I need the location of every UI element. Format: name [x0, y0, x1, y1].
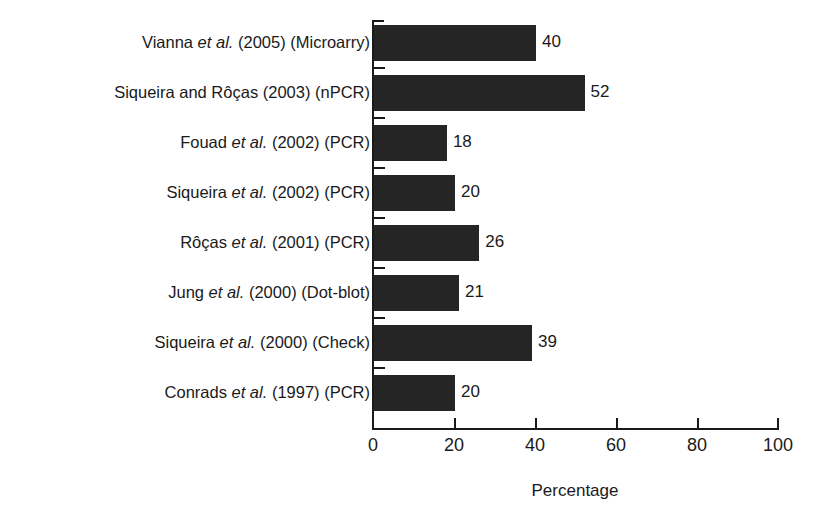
bar-category-label: Siqueira et al. (2000) (Check) — [10, 332, 370, 352]
bar-row: Siqueira et al. (2002) (PCR)20 — [0, 174, 822, 224]
bar — [374, 225, 479, 261]
bar-value-label: 20 — [461, 182, 480, 202]
x-axis-tick-label: 60 — [606, 434, 626, 456]
bar-chart: Vianna et al. (2005) (Microarry)40Siquei… — [0, 0, 822, 525]
y-axis-tick — [374, 317, 385, 319]
x-axis-tick-label: 40 — [525, 434, 545, 456]
y-axis-tick — [374, 117, 385, 119]
bar-category-label: Conrads et al. (1997) (PCR) — [10, 382, 370, 402]
bar-value-label: 21 — [465, 282, 484, 302]
x-axis-title-text: Percentage — [532, 481, 619, 500]
x-axis-tick-label: 20 — [444, 434, 464, 456]
bar-category-label: Jung et al. (2000) (Dot-blot) — [10, 282, 370, 302]
y-axis-tick — [374, 267, 385, 269]
x-axis-tick — [454, 418, 456, 429]
bar — [374, 175, 455, 211]
bar-row: Conrads et al. (1997) (PCR)20 — [0, 374, 822, 424]
bar-row: Jung et al. (2000) (Dot-blot)21 — [0, 274, 822, 324]
x-axis-tick — [616, 418, 618, 429]
bar — [374, 275, 459, 311]
bar-rows: Vianna et al. (2005) (Microarry)40Siquei… — [0, 24, 822, 424]
bar — [374, 25, 536, 61]
bar — [374, 375, 455, 411]
bar-value-label: 18 — [453, 132, 472, 152]
bar-value-label: 40 — [542, 32, 561, 52]
y-axis-tick — [374, 367, 385, 369]
x-axis-tick — [535, 418, 537, 429]
bar — [374, 325, 532, 361]
bar-value-label: 26 — [485, 232, 504, 252]
bar — [374, 75, 585, 111]
bar-row: Vianna et al. (2005) (Microarry)40 — [0, 24, 822, 74]
y-axis-top-cap — [372, 20, 384, 22]
bar-row: Siqueira and Rôças (2003) (nPCR)52 — [0, 74, 822, 124]
x-axis-line — [372, 428, 779, 430]
bar-row: Fouad et al. (2002) (PCR)18 — [0, 124, 822, 174]
bar-row: Siqueira et al. (2000) (Check)39 — [0, 324, 822, 374]
x-axis-tick — [697, 418, 699, 429]
bar — [374, 125, 447, 161]
y-axis-tick — [374, 167, 385, 169]
x-axis-tick-label: 80 — [687, 434, 707, 456]
bar-value-label: 39 — [538, 332, 557, 352]
bar-category-label: Siqueira and Rôças (2003) (nPCR) — [10, 82, 370, 102]
y-axis-tick — [374, 67, 385, 69]
x-axis-title: Percentage — [0, 481, 822, 501]
bar-category-label: Fouad et al. (2002) (PCR) — [10, 132, 370, 152]
x-axis-tick-label: 100 — [763, 434, 793, 456]
bar-value-label: 52 — [591, 82, 610, 102]
bar-category-label: Rôças et al. (2001) (PCR) — [10, 232, 370, 252]
x-axis-tick-label: 0 — [368, 434, 378, 456]
bar-value-label: 20 — [461, 382, 480, 402]
bar-category-label: Siqueira et al. (2002) (PCR) — [10, 182, 370, 202]
y-axis-tick — [374, 217, 385, 219]
bar-category-label: Vianna et al. (2005) (Microarry) — [10, 32, 370, 52]
bar-row: Rôças et al. (2001) (PCR)26 — [0, 224, 822, 274]
